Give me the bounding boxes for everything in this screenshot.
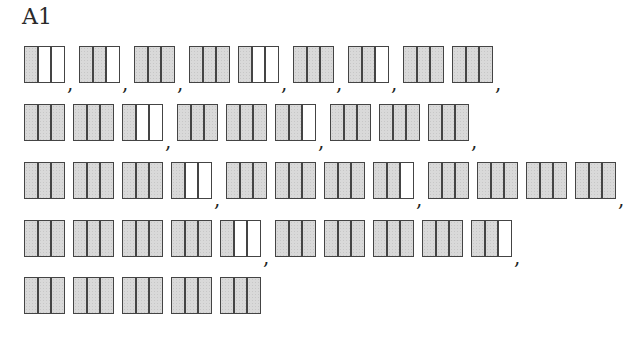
fraction-box bbox=[171, 220, 212, 257]
shaded-part bbox=[404, 47, 418, 82]
shaded-part bbox=[123, 278, 137, 313]
shaded-part bbox=[39, 105, 53, 140]
shaded-part bbox=[290, 221, 304, 256]
fraction-box bbox=[324, 220, 365, 257]
shaded-part bbox=[325, 221, 339, 256]
shaded-part bbox=[94, 47, 108, 82]
fraction-box bbox=[275, 220, 316, 257]
shaded-part bbox=[429, 105, 443, 140]
shaded-part bbox=[221, 278, 235, 313]
shaded-part bbox=[541, 163, 555, 198]
shaded-part bbox=[339, 163, 353, 198]
shaded-part bbox=[204, 47, 218, 82]
shaded-part bbox=[190, 47, 204, 82]
unshaded-part bbox=[248, 221, 260, 256]
fraction-box bbox=[452, 46, 493, 83]
shaded-part bbox=[443, 163, 457, 198]
comma-separator: , bbox=[334, 76, 348, 90]
unshaded-part bbox=[499, 221, 511, 256]
shaded-part bbox=[74, 221, 88, 256]
fraction-box bbox=[171, 277, 212, 314]
shaded-part bbox=[186, 221, 200, 256]
fraction-box bbox=[526, 162, 567, 199]
fraction-box bbox=[73, 104, 114, 141]
shaded-part bbox=[239, 47, 253, 82]
shaded-part bbox=[186, 278, 200, 313]
unshaded-part bbox=[107, 47, 119, 82]
fraction-group bbox=[24, 46, 65, 83]
shaded-part bbox=[172, 278, 186, 313]
fraction-group bbox=[79, 46, 120, 83]
comma-separator: , bbox=[120, 76, 134, 90]
fraction-group bbox=[24, 220, 261, 257]
shaded-part bbox=[456, 105, 468, 140]
shaded-part bbox=[25, 47, 39, 82]
shaded-part bbox=[450, 221, 462, 256]
shaded-part bbox=[363, 47, 377, 82]
unshaded-part bbox=[303, 105, 315, 140]
fraction-group bbox=[275, 220, 512, 257]
fraction-box bbox=[428, 162, 469, 199]
fraction-box bbox=[73, 277, 114, 314]
shaded-part bbox=[352, 163, 364, 198]
fraction-row-1: ,,,,,,, bbox=[24, 45, 507, 83]
fraction-box bbox=[24, 104, 65, 141]
shaded-part bbox=[39, 278, 53, 313]
shaded-part bbox=[88, 105, 102, 140]
shaded-part bbox=[227, 105, 241, 140]
fraction-box bbox=[238, 46, 279, 83]
unshaded-part bbox=[199, 163, 211, 198]
fraction-group bbox=[403, 46, 493, 83]
shaded-part bbox=[554, 163, 566, 198]
shaded-part bbox=[429, 163, 443, 198]
fraction-box bbox=[79, 46, 120, 83]
comma-separator: , bbox=[616, 192, 630, 206]
unshaded-part bbox=[376, 47, 388, 82]
unshaded-part bbox=[39, 47, 53, 82]
shaded-part bbox=[401, 221, 413, 256]
fraction-group bbox=[24, 277, 261, 314]
fraction-box bbox=[122, 220, 163, 257]
shaded-part bbox=[492, 163, 506, 198]
shaded-part bbox=[349, 47, 363, 82]
shaded-part bbox=[39, 221, 53, 256]
shaded-part bbox=[162, 47, 174, 82]
shaded-part bbox=[290, 105, 304, 140]
unshaded-part bbox=[401, 163, 413, 198]
fraction-box bbox=[226, 162, 267, 199]
shaded-part bbox=[358, 105, 370, 140]
shaded-part bbox=[388, 221, 402, 256]
shaded-part bbox=[431, 47, 443, 82]
shaded-part bbox=[172, 221, 186, 256]
shaded-part bbox=[276, 105, 290, 140]
fraction-box bbox=[471, 220, 512, 257]
fraction-box bbox=[324, 162, 365, 199]
shaded-part bbox=[321, 47, 333, 82]
unshaded-part bbox=[137, 105, 151, 140]
fraction-box bbox=[575, 162, 616, 199]
fraction-group bbox=[24, 162, 212, 199]
shaded-part bbox=[199, 278, 211, 313]
shaded-part bbox=[74, 278, 88, 313]
shaded-part bbox=[52, 163, 64, 198]
shaded-part bbox=[453, 47, 467, 82]
unshaded-part bbox=[150, 105, 162, 140]
shaded-part bbox=[221, 221, 235, 256]
shaded-part bbox=[325, 163, 339, 198]
shaded-part bbox=[443, 105, 457, 140]
unshaded-part bbox=[266, 47, 278, 82]
figure-title: A1 bbox=[22, 4, 52, 29]
unshaded-part bbox=[235, 221, 249, 256]
comma-separator: , bbox=[414, 192, 428, 206]
shaded-part bbox=[467, 47, 481, 82]
shaded-part bbox=[241, 163, 255, 198]
fraction-box bbox=[293, 46, 334, 83]
comma-separator: , bbox=[261, 250, 275, 264]
shaded-part bbox=[52, 221, 64, 256]
fraction-box bbox=[422, 220, 463, 257]
shaded-part bbox=[52, 278, 64, 313]
fraction-box bbox=[73, 162, 114, 199]
shaded-part bbox=[486, 221, 500, 256]
shaded-part bbox=[423, 221, 437, 256]
shaded-part bbox=[39, 163, 53, 198]
